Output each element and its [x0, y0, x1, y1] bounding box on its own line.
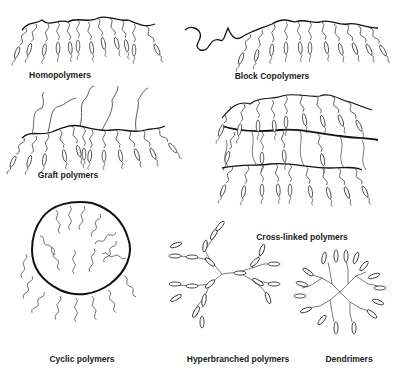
label-dendrimers: Dendrimers: [325, 354, 372, 364]
homopolymer-structure: [11, 17, 165, 66]
cross-linked-structure: [215, 94, 378, 207]
label-hyperbranched-polymers: Hyperbranched polymers: [187, 354, 290, 364]
cyclic-polymer-structure: [20, 202, 137, 322]
diagram-artwork: [0, 0, 398, 378]
graft-polymer-structure: [5, 86, 183, 175]
label-homopolymers: Homopolymers: [29, 70, 91, 80]
label-cross-linked-polymers: Cross-linked polymers: [256, 232, 348, 242]
block-copolymer-structure: [185, 20, 392, 72]
label-graft-polymers: Graft polymers: [38, 170, 98, 180]
label-cyclic-polymers: Cyclic polymers: [49, 354, 114, 364]
polymer-diagram: Homopolymers Block Copolymers Graft poly…: [0, 0, 398, 378]
dendrimer-structure: [294, 250, 386, 334]
label-block-copolymers: Block Copolymers: [235, 71, 310, 81]
